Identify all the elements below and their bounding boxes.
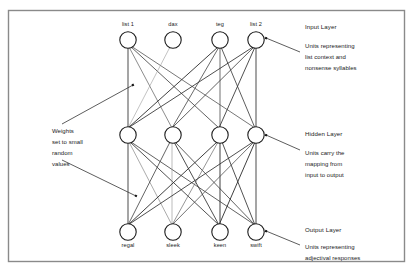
output-node-regal: [120, 224, 136, 240]
weights-note-line-3: random: [52, 150, 73, 156]
annotation-output-line-2: adjectival responses: [305, 255, 360, 261]
weights-note-line-1: Weights: [52, 128, 74, 134]
weights-note-line-4: values: [52, 161, 70, 167]
annotation-output-line-1: Units representing: [305, 244, 355, 250]
hidden-node-1: [120, 127, 136, 143]
hidden-node-2: [165, 127, 181, 143]
annotation-hidden-line-1: Units carry the: [305, 150, 344, 156]
diagram-canvas: [0, 0, 416, 275]
input-node-list-2: [248, 32, 264, 48]
output-node-label-sleek: sleek: [153, 243, 193, 249]
weights-note-line-2: set to small: [52, 139, 83, 145]
annotation-input-line-3: nonsense syllables: [305, 65, 357, 71]
annotation-hidden-line-3: input to output: [305, 172, 344, 178]
annotation-title-output-layer: Output Layer: [305, 227, 341, 233]
annotation-input-line-2: list context and: [305, 54, 346, 60]
input-node-list-1: [120, 32, 136, 48]
output-node-label-keen: keen: [200, 243, 240, 249]
input-node-label-teg: teg: [200, 22, 240, 28]
input-node-teg: [212, 32, 228, 48]
hidden-node-3: [212, 127, 228, 143]
input-node-dax: [165, 32, 181, 48]
input-node-label-list-2: list 2: [236, 22, 276, 28]
annotation-title-input-layer: Input Layer: [305, 24, 337, 30]
output-node-label-swift: swift: [236, 243, 276, 249]
output-node-keen: [212, 224, 228, 240]
input-node-label-dax: dax: [153, 22, 193, 28]
output-node-sleek: [165, 224, 181, 240]
hidden-node-4: [248, 127, 264, 143]
annotation-hidden-line-2: mapping from: [305, 161, 342, 167]
output-node-swift: [248, 224, 264, 240]
neural-network-diagram: list 1 dax teg list 2 regal sleek keen s…: [0, 0, 416, 275]
output-node-label-regal: regal: [108, 243, 148, 249]
input-node-label-list-1: list 1: [108, 22, 148, 28]
annotation-input-line-1: Units representing: [305, 43, 355, 49]
annotation-title-hidden-layer: Hidden Layer: [305, 131, 342, 137]
